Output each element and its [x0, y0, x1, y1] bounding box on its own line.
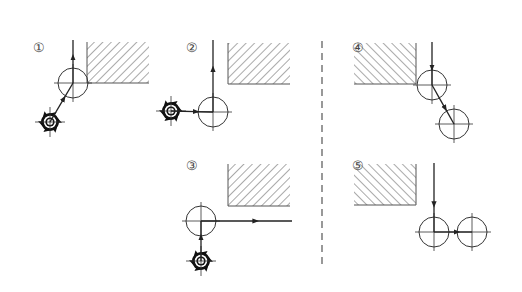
panel-5: ⑤	[352, 158, 491, 251]
tool-path-arrow	[432, 85, 454, 124]
panel-4: ④	[352, 40, 473, 143]
panel-3: ③	[182, 158, 292, 276]
diagram-canvas: ①②③④⑤	[0, 0, 522, 292]
panel-1: ①	[33, 40, 149, 137]
workpiece-hatch	[228, 43, 290, 84]
tool-path-arrow	[50, 83, 73, 122]
panel-label: ①	[33, 40, 45, 55]
panel-label: ②	[186, 40, 198, 55]
panel-2: ②	[156, 40, 290, 131]
panels: ①②③④⑤	[33, 40, 491, 276]
workpiece-hatch	[354, 43, 416, 84]
panel-label: ③	[186, 158, 198, 173]
diagram-svg: ①②③④⑤	[0, 0, 522, 292]
workpiece-hatch	[228, 164, 290, 206]
workpiece-hatch	[87, 42, 149, 83]
workpiece-hatch	[354, 164, 416, 205]
